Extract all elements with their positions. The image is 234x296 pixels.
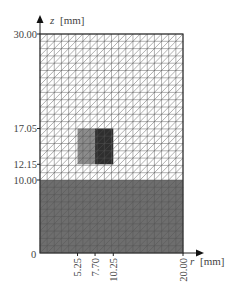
r-tick-label: 5.25 — [72, 258, 83, 276]
z-tick-label: 30.00 — [13, 29, 37, 40]
z-tick-label: 12.15 — [13, 159, 37, 170]
r-axis-unit: [mm] — [200, 255, 224, 267]
r-axis-var: r — [190, 255, 195, 267]
r-axis-label: r [mm] — [190, 255, 224, 267]
origin-label: 0 — [31, 249, 36, 260]
r-ticks: 5.257.7010.2520.00 — [72, 253, 188, 282]
z-axis-label: z [mm] — [49, 14, 84, 26]
mesh-diagram: z [mm] r [mm] 0 30.0017.0512.1510.00 5.2… — [0, 0, 234, 296]
z-tick-label: 10.00 — [13, 175, 37, 186]
z-axis-arrow-icon — [37, 15, 44, 23]
z-axis-unit: [mm] — [60, 14, 84, 26]
z-axis-var: z — [49, 14, 55, 26]
z-ticks: 30.0017.0512.1510.00 — [13, 29, 40, 186]
triangular-mesh — [40, 34, 183, 253]
r-tick-label: 7.70 — [90, 258, 101, 276]
r-tick-label: 10.25 — [108, 258, 119, 282]
r-tick-label: 20.00 — [178, 258, 189, 282]
z-tick-label: 17.05 — [13, 123, 37, 134]
